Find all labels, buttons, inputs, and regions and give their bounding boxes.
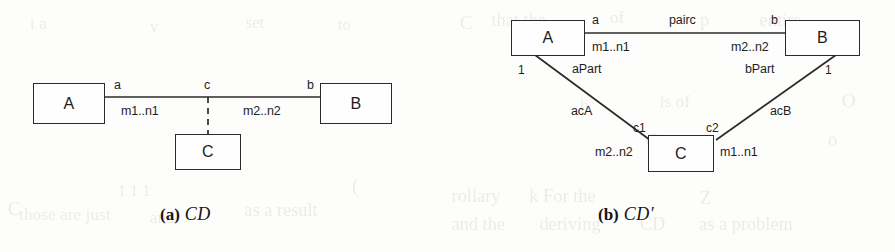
figure-b-caption-name: CD′: [624, 204, 654, 224]
figure-b-caption-tag: (b): [598, 205, 619, 224]
class-box-b[interactable]: B: [320, 83, 392, 124]
class-name-c: C: [675, 146, 687, 162]
multiplicity-label-bpart-one: 1: [825, 64, 832, 76]
class-name-c: C: [202, 144, 214, 160]
figure-a-connector-lines: [0, 0, 440, 252]
role-label-b: b: [307, 79, 314, 92]
multiplicity-label-c2: m1..n1: [720, 146, 758, 159]
role-label-a: a: [114, 79, 121, 92]
class-name-b: B: [351, 96, 362, 112]
role-label-c1: c1: [633, 122, 645, 134]
figure-a-caption-tag: (a): [160, 205, 180, 224]
scanned-figure-page: Cthose are just1 1 1andas a resulti avse…: [0, 0, 895, 252]
figure-a-caption: (a)CD: [160, 205, 211, 223]
figure-b-caption: (b)CD′: [598, 205, 654, 223]
multiplicity-label-a-side: m1..n1: [121, 105, 159, 118]
class-box-a[interactable]: A: [33, 83, 105, 124]
role-label-apart: aPart: [572, 63, 601, 76]
class-name-a: A: [543, 30, 554, 46]
role-label-bpart: bPart: [745, 63, 774, 76]
role-label-c: c: [204, 79, 210, 92]
figure-a-class-diagram-cd: A B C a c b m1..n1 m2..n2 (a)CD: [0, 0, 440, 252]
class-box-a[interactable]: A: [511, 20, 585, 56]
multiplicity-label-a-top: m1..n1: [592, 41, 630, 54]
multiplicity-label-apart-one: 1: [518, 64, 525, 76]
role-label-b-top: b: [771, 14, 778, 27]
role-label-a-top: a: [592, 14, 599, 27]
class-box-b[interactable]: B: [785, 20, 860, 56]
class-name-b: B: [817, 30, 828, 46]
association-name-acb: acB: [770, 105, 791, 118]
figure-b-class-diagram-cd-prime: A B C a pairc b m1..n1 m2..n2 1 aPart ac…: [440, 0, 895, 252]
role-label-c2: c2: [706, 122, 718, 134]
association-name-pairc: pairc: [669, 14, 696, 27]
figure-a-caption-name: CD: [185, 204, 211, 224]
association-line-b-c-acb: [716, 55, 836, 140]
multiplicity-label-b-top: m2..n2: [731, 41, 769, 54]
multiplicity-label-b-side: m2..n2: [243, 105, 281, 118]
class-name-a: A: [64, 96, 75, 112]
multiplicity-label-c1: m2..n2: [595, 146, 633, 159]
class-box-c[interactable]: C: [175, 134, 241, 170]
association-name-aca: acA: [571, 105, 592, 118]
class-box-c[interactable]: C: [648, 135, 714, 172]
